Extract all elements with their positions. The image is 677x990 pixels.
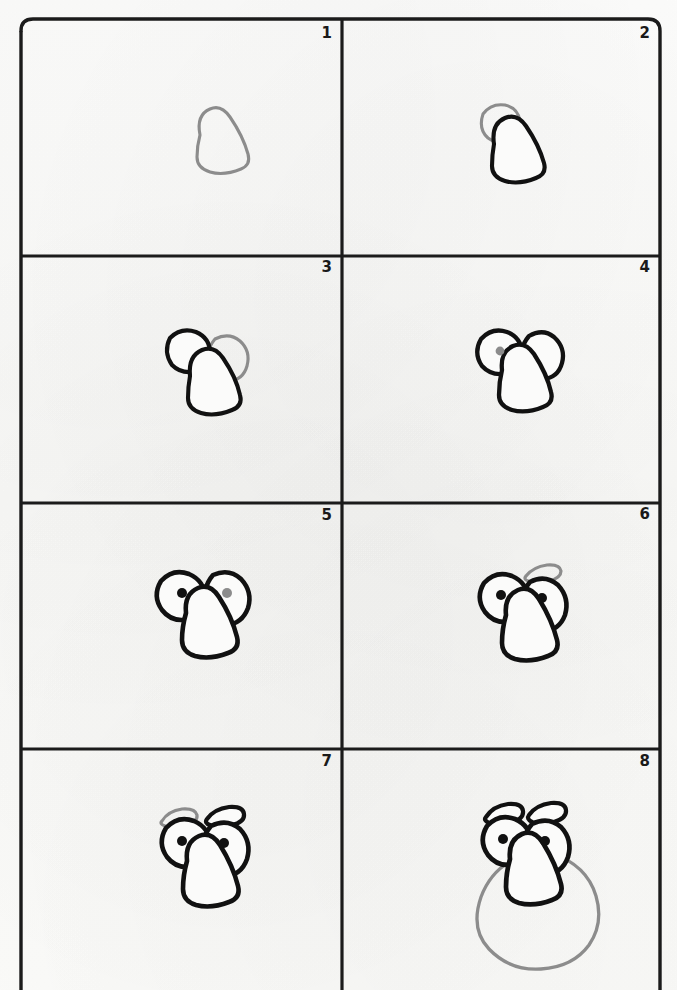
left-pupil xyxy=(496,347,505,356)
right-pupil xyxy=(222,588,232,598)
right-pupil xyxy=(540,836,550,846)
left-pupil xyxy=(177,588,187,598)
panel-number: 7 xyxy=(322,754,332,769)
panel-8-artwork xyxy=(342,749,660,990)
panel-number: 3 xyxy=(322,260,332,275)
panel-4[interactable]: 4 xyxy=(342,256,660,503)
panel-3-artwork xyxy=(21,256,342,503)
panel-2[interactable]: 2 xyxy=(342,19,660,256)
panel-6[interactable]: 6 xyxy=(342,503,660,749)
panel-7-artwork xyxy=(21,749,342,990)
left-pupil xyxy=(498,834,508,844)
panel-5[interactable]: 5 xyxy=(21,503,342,749)
panel-4-artwork xyxy=(342,256,660,503)
tutorial-sheet: 1 2 3 xyxy=(0,0,677,990)
panel-8[interactable]: 8 xyxy=(342,749,660,990)
panel-number: 8 xyxy=(640,754,650,769)
left-pupil xyxy=(496,590,506,600)
panel-number: 2 xyxy=(640,26,650,41)
left-pupil xyxy=(177,836,187,846)
panel-5-artwork xyxy=(21,503,342,749)
panel-number: 4 xyxy=(640,260,650,275)
panel-number: 1 xyxy=(322,26,332,41)
nose-shape xyxy=(197,108,249,174)
panel-3[interactable]: 3 xyxy=(21,256,342,503)
panel-number: 6 xyxy=(640,507,650,522)
panel-7[interactable]: 7 xyxy=(21,749,342,990)
panel-2-artwork xyxy=(342,19,660,256)
panel-1[interactable]: 1 xyxy=(21,19,342,256)
nose-shape xyxy=(492,117,545,183)
panel-number: 5 xyxy=(322,508,332,523)
nose-shape xyxy=(188,349,241,415)
right-pupil xyxy=(537,593,547,603)
panel-1-artwork xyxy=(21,19,342,256)
panel-6-artwork xyxy=(342,503,660,749)
right-pupil xyxy=(219,838,229,848)
